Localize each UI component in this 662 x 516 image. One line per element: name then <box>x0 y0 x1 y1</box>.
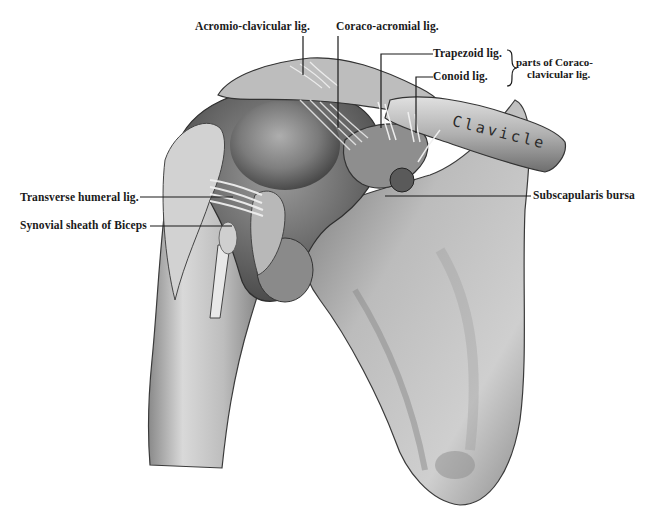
label-coraco-acromial: Coraco-acromial lig. <box>336 20 439 33</box>
label-conoid: Conoid lig. <box>433 70 488 83</box>
label-coracoclavicular-line1: parts of Coraco- <box>516 56 593 68</box>
label-trapezoid: Trapezoid lig. <box>433 47 502 60</box>
label-transverse-humeral: Transverse humeral lig. <box>20 191 139 204</box>
label-subscapularis-bursa: Subscapularis bursa <box>533 189 635 202</box>
label-synovial-sheath: Synovial sheath of Biceps <box>20 219 147 232</box>
shoulder-joint-illustration: Clavicle Acromio-clavicular lig. Coraco-… <box>0 0 662 516</box>
label-coracoclavicular-line2: clavicular lig. <box>527 68 590 80</box>
label-acromio-clavicular: Acromio-clavicular lig. <box>195 20 310 33</box>
